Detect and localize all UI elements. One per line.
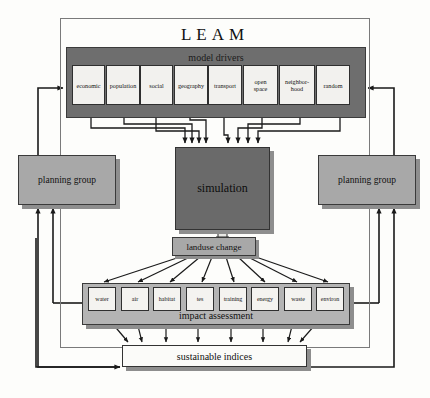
model-driver-social[interactable]: social: [140, 65, 173, 105]
model-driver-geography[interactable]: geography: [174, 65, 208, 105]
landuse-change-box[interactable]: landuse change: [172, 237, 256, 256]
impact-factor-habitat[interactable]: habitat: [153, 287, 181, 311]
impact-factor-tes[interactable]: tes: [186, 287, 214, 311]
model-driver-population[interactable]: population: [106, 65, 140, 105]
diagram-canvas: LEAM model drivers economicpopulationsoc…: [0, 0, 430, 398]
impact-factor-air[interactable]: air: [121, 287, 149, 311]
model-driver-random[interactable]: random: [316, 65, 350, 105]
sustainable-indices-box[interactable]: sustainable indices: [122, 345, 307, 367]
impact-factor-training[interactable]: training: [219, 287, 247, 311]
model-driver-neighborhood[interactable]: neighbor- hood: [279, 65, 315, 105]
impact-factor-water[interactable]: water: [88, 287, 116, 311]
model-driver-economic[interactable]: economic: [72, 65, 105, 105]
model-driver-transport[interactable]: transport: [208, 65, 242, 105]
planning-group-left-box[interactable]: planning group: [18, 155, 116, 205]
impact-factor-waste[interactable]: waste: [284, 287, 312, 311]
impact-factor-energy[interactable]: energy: [251, 287, 279, 311]
model-driver-open-space[interactable]: open space: [243, 65, 278, 105]
planning-group-right-box[interactable]: planning group: [318, 155, 416, 205]
impact-factor-environ[interactable]: environ: [316, 287, 344, 311]
simulation-box[interactable]: simulation: [175, 147, 270, 230]
